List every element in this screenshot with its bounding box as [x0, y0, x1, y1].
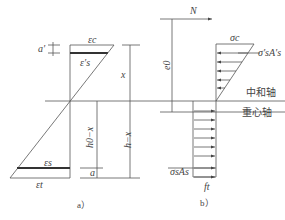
panel-b-stress: N e0 重心轴 中和轴 σc σ′sA′s — [160, 5, 285, 208]
panel-a-strain: εc ε′s a′ x h0−x h−x εs εt a a） — [10, 34, 285, 210]
label-ft: ft — [204, 181, 210, 192]
label-e0: e0 — [161, 61, 172, 70]
label-a-prime: a′ — [38, 43, 46, 54]
label-eps-s: εs — [44, 157, 52, 168]
label-h0-x: h0−x — [84, 126, 95, 148]
label-eps-t: εt — [36, 179, 43, 190]
label-h-x: h−x — [122, 131, 133, 148]
tension-arrows — [194, 111, 215, 177]
label-sigma-c: σc — [230, 32, 240, 43]
strain-stress-diagram: εc ε′s a′ x h0−x h−x εs εt a a） N e0 重心轴… — [0, 0, 285, 220]
label-neutral-axis: 中和轴 — [246, 86, 276, 98]
label-eps-c: εc — [88, 34, 97, 45]
caption-a: a） — [77, 200, 90, 210]
label-centroid-axis: 重心轴 — [242, 106, 272, 118]
label-a: a — [90, 167, 95, 178]
compression-arrows — [217, 53, 248, 88]
caption-b: b） — [200, 198, 214, 208]
label-eps-s-prime: ε′s — [80, 57, 90, 68]
label-x: x — [120, 69, 126, 80]
label-sigma-s-prime-As-prime: σ′sA′s — [258, 47, 281, 58]
label-sigma-s-As: σsAs — [170, 166, 189, 177]
strain-diagonal — [10, 45, 114, 178]
label-N: N — [189, 5, 198, 16]
